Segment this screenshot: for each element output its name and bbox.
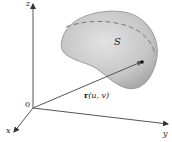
origin-label: 0 <box>25 101 30 109</box>
vector-label: r(u, v) <box>84 91 109 100</box>
y-axis-label: y <box>163 130 168 138</box>
z-axis-label: z <box>26 0 30 8</box>
x-axis-label: x <box>6 127 11 135</box>
x-axis <box>14 108 33 132</box>
surface-label: S <box>114 37 121 47</box>
surface-s <box>61 11 157 89</box>
vector-arguments: (u, v) <box>88 91 109 100</box>
surface-point <box>140 60 144 64</box>
parametric-surface-figure: z x y 0 S r(u, v) <box>0 0 172 142</box>
diagram-svg <box>0 0 172 142</box>
y-axis <box>33 108 168 124</box>
